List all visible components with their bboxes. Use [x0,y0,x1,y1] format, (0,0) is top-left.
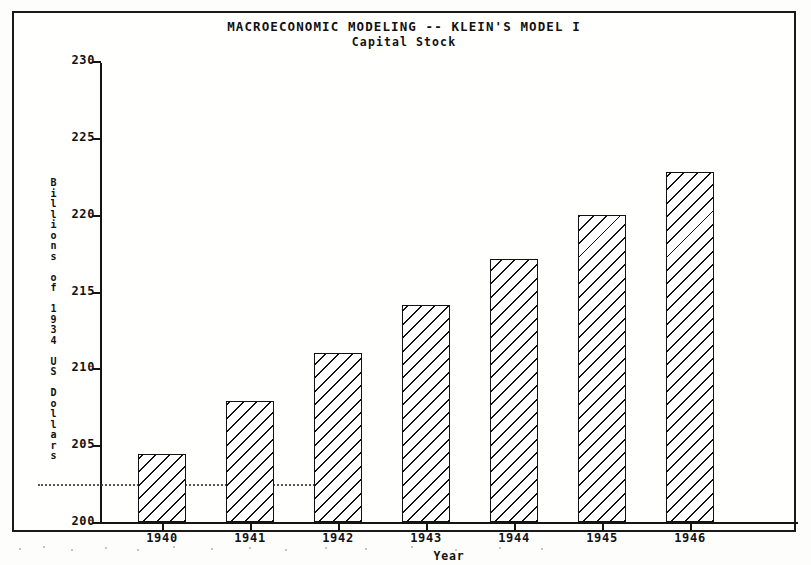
x-tick-mark [250,524,252,530]
scan-artifact-strip [14,543,574,555]
x-tick-label: 1946 [646,531,734,545]
plot-area: 200205210215220225230 194019411942194319… [100,61,800,526]
bar [138,454,186,522]
figure-frame: MACROECONOMIC MODELING -- KLEIN'S MODEL … [12,11,796,532]
x-tick-mark [338,524,340,530]
scanned-page: MACROECONOMIC MODELING -- KLEIN'S MODEL … [0,0,811,565]
y-axis-title-char: f [47,283,60,294]
x-tick-mark [602,524,604,530]
y-axis-title-char: n [47,241,60,252]
y-axis-title-char: l [47,199,60,210]
y-tick-label: 200 [72,514,95,528]
bar [578,215,626,522]
x-tick-mark [426,524,428,530]
bar-series [100,61,798,524]
chart-title: MACROECONOMIC MODELING -- KLEIN'S MODEL … [14,19,794,35]
y-axis-title: Billions of 1934 US Dollars [47,178,60,462]
y-tick-label: 210 [72,360,95,374]
y-axis-title-char: 1 [47,304,60,315]
y-axis-title-char: i [47,220,60,231]
y-axis-title-char [47,346,60,357]
y-tick-label: 230 [72,53,95,67]
title-block: MACROECONOMIC MODELING -- KLEIN'S MODEL … [14,19,794,50]
bar [314,353,362,522]
y-tick-label: 220 [72,207,95,221]
bar [490,259,538,522]
y-axis-title-char: D [47,388,60,399]
x-tick-mark [162,524,164,530]
bar [226,401,274,522]
x-tick-mark [514,524,516,530]
y-tick-label: 225 [72,130,95,144]
y-axis-title-char: B [47,178,60,189]
chart-subtitle: Capital Stock [14,35,794,50]
bar [402,305,450,522]
y-axis-title-char: 3 [47,325,60,336]
y-axis-title-char [47,262,60,273]
y-axis-title-char: a [47,430,60,441]
y-tick-label: 205 [72,437,95,451]
x-tick-mark [690,524,692,530]
y-axis-title-char: s [47,451,60,462]
bar [666,172,714,522]
y-axis-title-char: S [47,367,60,378]
y-axis-title-char: l [47,409,60,420]
y-tick-label: 215 [72,284,95,298]
